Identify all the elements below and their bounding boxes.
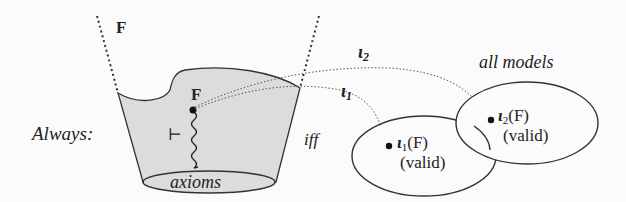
cone-left-dotted-line [97,16,118,93]
formula-top-label: F [116,18,126,37]
iota-2-arrow-label: ι2 [358,42,369,64]
model-2-formula-label: ι2(F) [498,106,529,126]
model-1-dot [386,143,392,149]
always-label: Always: [30,123,93,144]
diagram-svg: F F Always: ⊢ axioms iff all models ι1 ι… [0,0,626,202]
model-1-formula-label: ι1(F) [397,133,428,153]
axioms-label: axioms [170,172,221,192]
all-models-label: all models [479,52,554,72]
model-2-status: (valid) [503,126,548,145]
iff-label: iff [304,130,320,149]
soundness-diagram: F F Always: ⊢ axioms iff all models ι1 ι… [0,0,626,202]
turnstile-symbol: ⊢ [168,126,182,143]
theory-bucket [118,68,300,182]
cone-right-dotted-line [300,16,319,88]
model-2-dot [488,117,494,123]
model-1-status: (valid) [400,153,445,172]
iota-1-arrow-label: ι1 [341,81,352,103]
formula-dot [190,107,197,114]
formula-inner-label: F [191,85,201,104]
